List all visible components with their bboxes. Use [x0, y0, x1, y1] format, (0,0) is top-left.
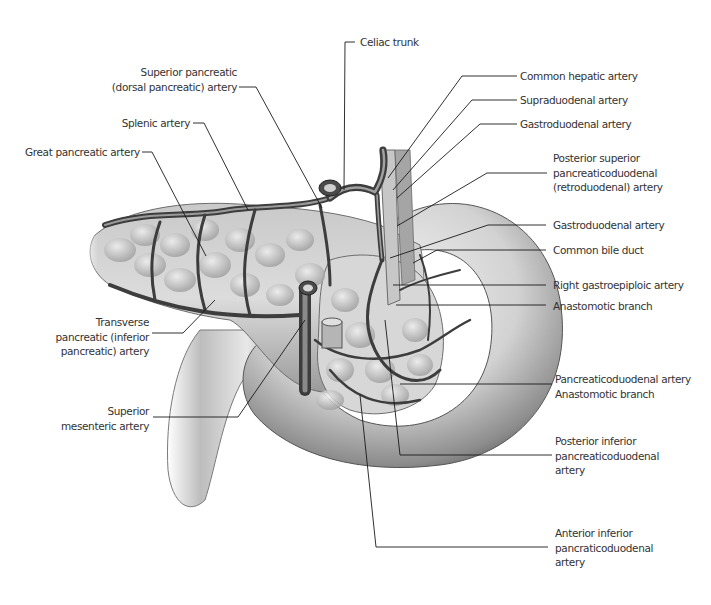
- label-gastroduodenal-artery-top: Gastroduodenal artery: [520, 117, 631, 132]
- label-splenic-artery: Splenic artery: [122, 116, 190, 131]
- label-common-hepatic-artery: Common hepatic artery: [520, 69, 638, 84]
- label-supraduodenal-artery: Supraduodenal artery: [520, 93, 628, 108]
- anatomical-figure: Celiac trunk Superior pancreatic (dorsal…: [0, 0, 711, 605]
- label-gastroduodenal-artery-mid: Gastroduodenal artery: [553, 218, 664, 233]
- label-anastomotic-branch: Anastomotic branch: [553, 299, 652, 314]
- label-right-gastroepiploic-artery: Right gastroepiploic artery: [553, 278, 684, 293]
- label-great-pancreatic-artery: Great pancreatic artery: [25, 145, 140, 160]
- label-posterior-inferior-pancreaticoduodenal-artery: Posterior inferior pancreaticoduodenal a…: [555, 434, 659, 478]
- label-anterior-inferior-pancreaticoduodenal-artery: Anterior inferior pancraticoduodenal art…: [555, 526, 653, 570]
- label-transverse-pancreatic-artery: Transverse pancreatic (inferior pancreat…: [56, 315, 149, 359]
- label-pancreaticoduodenal-anastomotic-branch: Pancreaticoduodenal artery Anastomotic b…: [555, 372, 691, 401]
- label-superior-mesenteric-artery: Superior mesenteric artery: [61, 404, 149, 433]
- label-common-bile-duct: Common bile duct: [553, 243, 644, 258]
- label-celiac-trunk: Celiac trunk: [360, 35, 419, 50]
- label-posterior-superior-pancreaticoduodenal-artery: Posterior superior pancreaticoduodenal (…: [553, 151, 663, 195]
- label-superior-pancreatic-artery: Superior pancreatic (dorsal pancreatic) …: [112, 65, 237, 94]
